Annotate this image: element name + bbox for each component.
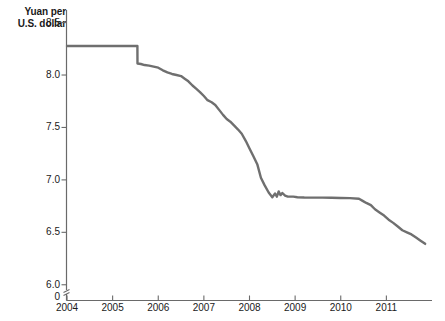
- x-axis-tick-label: 2007: [181, 303, 227, 313]
- y-axis-tick-label: 8.5: [20, 18, 60, 28]
- chart-container: Yuan per U.S. dollar 8.58.07.57.06.56.0 …: [0, 0, 445, 321]
- x-axis-tick-label: 2010: [318, 303, 364, 313]
- y-axis-tick-label: 7.0: [20, 175, 60, 185]
- x-axis-tick-label: 2005: [90, 303, 136, 313]
- y-axis-tick-label: 6.5: [20, 227, 60, 237]
- axis-break-icon: [64, 290, 70, 296]
- axes-group: [64, 10, 433, 301]
- x-axis-tick-label: 2009: [272, 303, 318, 313]
- x-axis-tick-label: 2011: [363, 303, 409, 313]
- x-axis-ticks: [67, 296, 386, 301]
- y-axis-tick-label: 7.5: [20, 122, 60, 132]
- y-axis-tick-label: 6.0: [20, 280, 60, 290]
- y-axis-tick-label: 8.0: [20, 70, 60, 80]
- axis-zero-label: 0: [30, 292, 60, 302]
- chart-plot-area: [0, 0, 445, 321]
- x-axis-tick-label: 2004: [44, 303, 90, 313]
- data-series-line: [67, 46, 425, 244]
- x-axis-tick-label: 2006: [135, 303, 181, 313]
- x-axis-tick-label: 2008: [227, 303, 273, 313]
- y-axis-ticks: [62, 23, 67, 285]
